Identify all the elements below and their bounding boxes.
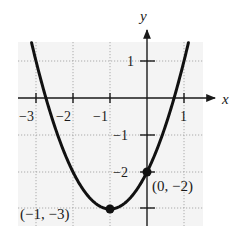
x-tick-label: −1 [93, 109, 108, 124]
x-tick-label: −3 [19, 109, 34, 124]
y-intercept-point [143, 168, 152, 177]
x-axis-label: x [221, 91, 229, 107]
parabola-graph: x y −3 −2 −1 1 1 −1 −2 (−1, −3) (0, −2) [0, 0, 241, 244]
x-tick-label: 1 [180, 109, 187, 124]
y-tick-label: −1 [113, 128, 128, 143]
y-axis-label: y [138, 8, 147, 24]
y-tick-label: −2 [113, 165, 128, 180]
plot-background [18, 42, 203, 226]
vertex-label: (−1, −3) [20, 206, 69, 223]
x-tick-label: −2 [56, 109, 71, 124]
y-tick-label: 1 [127, 54, 134, 69]
intercept-label: (0, −2) [152, 178, 193, 195]
vertex-point [106, 205, 115, 214]
